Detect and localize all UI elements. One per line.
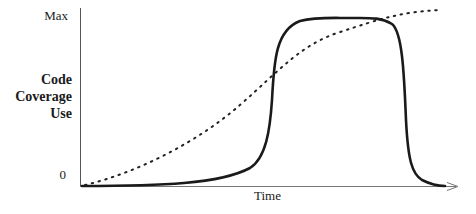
- chart-plot: [0, 0, 476, 214]
- series-code-coverage: [85, 10, 440, 185]
- series-use: [82, 18, 445, 186]
